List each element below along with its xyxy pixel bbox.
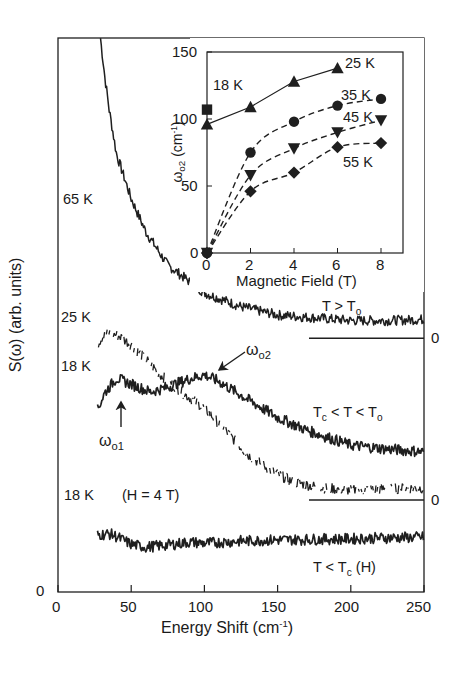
inset-label-45K: 45 K (343, 109, 373, 125)
inset-xtick-4: 4 (289, 256, 297, 273)
inset-xtick-0: 0 (202, 256, 210, 273)
main-xtick-50: 50 (120, 598, 137, 615)
circle-marker (289, 116, 299, 126)
inset-yaxis-title: ωo2 (cm-1) (169, 121, 187, 182)
main-xtick-200: 200 (334, 598, 359, 615)
inset-label-55K: 55 K (343, 154, 373, 170)
baseline-zero-upper: 0 (431, 329, 439, 346)
main-xaxis-title: Energy Shift (cm-1) (161, 618, 293, 637)
label-25K: 25 K (61, 309, 91, 325)
main-xtick-0: 0 (52, 598, 60, 615)
regime-label-above-To: T > To (322, 298, 361, 317)
inset-xtick-2: 2 (245, 256, 253, 273)
inset-ytick-0: 0 (190, 244, 198, 261)
label-H-4T: (H = 4 T) (122, 487, 179, 503)
circle-marker (245, 147, 255, 157)
inset-label-35K: 35 K (341, 87, 371, 103)
inset-xtick-8: 8 (376, 256, 384, 273)
omega-o2-label: ωo2 (246, 341, 271, 361)
label-18K: 18 K (61, 358, 91, 374)
baseline-zero-lower: 0 (431, 491, 439, 508)
inset-xtick-6: 6 (332, 256, 340, 273)
inset-ytick-150: 150 (172, 43, 197, 60)
inset-xaxis-title: Magnetic Field (T) (236, 272, 357, 289)
omega-o2-arrow (219, 352, 245, 370)
circle-marker (376, 94, 386, 104)
inset-label-18K: 18 K (213, 77, 243, 93)
main-xtick-150: 150 (261, 598, 286, 615)
spectrum-18-k-h-4-t- (98, 529, 424, 552)
square-marker (202, 104, 212, 114)
regime-label-below-Tc: T < Tc (H) (313, 559, 376, 578)
main-ytick-0: 0 (36, 582, 44, 599)
label-18K-H4T: 18 K (64, 487, 94, 503)
main-yaxis-title: S(ω) (arb. units) (7, 258, 25, 373)
omega-o1-label: ωo1 (99, 432, 124, 452)
main-xtick-100: 100 (188, 598, 213, 615)
regime-label-between: Tc < T < To (313, 404, 383, 423)
inset-label-25K: 25 K (345, 55, 375, 71)
label-65K: 65 K (63, 191, 93, 207)
figure-canvas (0, 0, 467, 679)
annotation-arrows (121, 352, 245, 427)
main-xtick-250: 250 (406, 598, 431, 615)
